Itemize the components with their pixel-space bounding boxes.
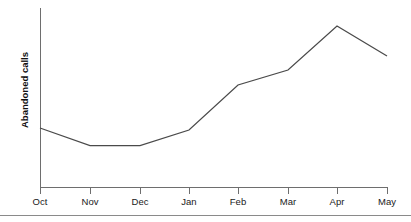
chart-canvas: Oct Nov Dec Jan Feb Mar Apr May Abandone…: [0, 0, 411, 222]
x-tick-label-nov: Nov: [82, 196, 99, 207]
x-tick-label-feb: Feb: [230, 196, 246, 207]
x-tick-label-apr: Apr: [330, 196, 345, 207]
x-axis-tick-labels: Oct Nov Dec Jan Feb Mar Apr May: [33, 196, 397, 207]
series-group: [40, 26, 387, 146]
y-axis-title: Abandoned calls: [19, 52, 30, 128]
x-tick-label-jan: Jan: [181, 196, 196, 207]
axes-group: [41, 8, 388, 188]
x-tick-label-oct: Oct: [33, 196, 48, 207]
series-line-abandoned-calls: [40, 26, 387, 146]
x-tick-label-mar: Mar: [280, 196, 296, 207]
x-tick-label-may: May: [378, 196, 396, 207]
x-axis-ticks: [41, 188, 388, 195]
line-chart-figure: Oct Nov Dec Jan Feb Mar Apr May Abandone…: [0, 0, 411, 222]
x-tick-label-dec: Dec: [132, 196, 149, 207]
